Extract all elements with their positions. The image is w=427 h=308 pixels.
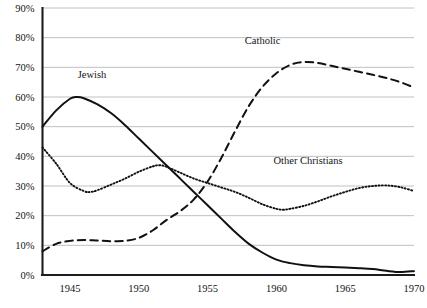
- series-label-catholic: Catholic: [245, 35, 281, 46]
- chart-container: 0%10%20%30%40%50%60%70%80%90% 1945195019…: [0, 0, 427, 308]
- y-tick-label: 80%: [15, 32, 35, 43]
- y-axis-tick-labels: 0%10%20%30%40%50%60%70%80%90%: [15, 3, 35, 281]
- y-tick-label: 30%: [15, 181, 35, 192]
- y-tick-label: 40%: [15, 151, 35, 162]
- axes-group: [42, 8, 414, 275]
- y-tick-label: 20%: [15, 210, 35, 221]
- x-tick-label: 1950: [128, 283, 149, 294]
- x-tick-label: 1970: [404, 283, 425, 294]
- series-group: [43, 62, 415, 272]
- y-tick-label: 0%: [21, 270, 35, 281]
- y-tick-label: 10%: [15, 240, 35, 251]
- line-chart: 0%10%20%30%40%50%60%70%80%90% 1945195019…: [0, 0, 427, 308]
- x-axis-tick-labels: 194519501955196019651970: [60, 283, 425, 294]
- y-tick-label: 90%: [15, 3, 35, 14]
- y-tick-label: 50%: [15, 121, 35, 132]
- x-tick-label: 1955: [197, 283, 218, 294]
- series-annotations: JewishCatholicOther Christians: [78, 35, 343, 166]
- series-label-other-christians: Other Christians: [273, 155, 342, 166]
- x-tick-label: 1965: [335, 283, 356, 294]
- y-tick-label: 60%: [15, 92, 35, 103]
- series-label-jewish: Jewish: [78, 69, 107, 80]
- x-tick-label: 1960: [266, 283, 287, 294]
- gridlines-group: [43, 8, 415, 275]
- y-tick-label: 70%: [15, 62, 35, 73]
- x-tick-label: 1945: [60, 283, 81, 294]
